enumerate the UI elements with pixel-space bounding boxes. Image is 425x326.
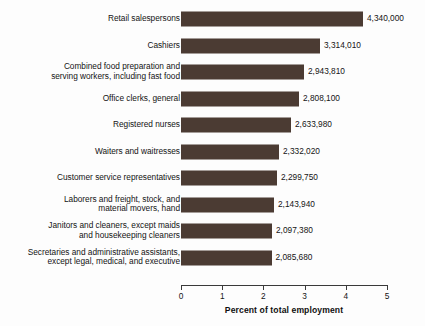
bar — [181, 91, 299, 106]
bar-row: Customer service representatives 2,299,7… — [0, 165, 425, 191]
bar — [181, 144, 279, 159]
value-label: 2,085,680 — [276, 253, 313, 263]
bar-row: Waiters and waitresses 2,332,020 — [0, 139, 425, 165]
x-axis-tick-label: 4 — [336, 291, 356, 301]
x-axis-tick — [346, 285, 347, 290]
x-axis-tick — [263, 285, 264, 290]
category-label: Retail salespersons — [0, 14, 180, 24]
value-label: 4,340,000 — [367, 14, 404, 24]
value-label: 2,143,940 — [278, 200, 315, 210]
x-axis-line — [181, 285, 387, 286]
value-label: 2,332,020 — [283, 147, 320, 157]
bar-row: Laborers and freight, stock, and materia… — [0, 192, 425, 218]
bar-row: Combined food preparation and serving wo… — [0, 59, 425, 85]
value-label: 2,097,380 — [276, 226, 313, 236]
category-label: Combined food preparation and serving wo… — [0, 62, 180, 82]
x-axis-tick — [305, 285, 306, 290]
x-axis-tick — [222, 285, 223, 290]
bar-row: Office clerks, general 2,808,100 — [0, 86, 425, 112]
category-label: Secretaries and administrative assistant… — [0, 248, 180, 268]
value-label: 2,943,810 — [308, 67, 345, 77]
category-label: Cashiers — [0, 41, 180, 51]
x-axis-tick-label: 0 — [171, 291, 191, 301]
bar — [181, 197, 274, 212]
x-axis-tick — [387, 285, 388, 290]
horizontal-bar-chart: Retail salespersons 4,340,000 Cashiers 3… — [0, 0, 425, 326]
value-label: 2,808,100 — [303, 94, 340, 104]
bar — [181, 224, 272, 239]
x-axis-tick-label: 3 — [295, 291, 315, 301]
category-label: Customer service representatives — [0, 173, 180, 183]
bar-row: Retail salespersons 4,340,000 — [0, 6, 425, 32]
bar-row: Registered nurses 2,633,980 — [0, 112, 425, 138]
x-axis-tick-label: 2 — [253, 291, 273, 301]
x-axis-title: Percent of total employment — [181, 305, 387, 315]
category-label: Waiters and waitresses — [0, 147, 180, 157]
x-axis-tick-label: 1 — [212, 291, 232, 301]
category-label: Registered nurses — [0, 120, 180, 130]
bar — [181, 38, 320, 53]
bar-row: Janitors and cleaners, except maids and … — [0, 218, 425, 244]
category-label: Office clerks, general — [0, 94, 180, 104]
bar — [181, 12, 363, 27]
value-label: 3,314,010 — [324, 41, 361, 51]
x-axis-tick-label: 5 — [377, 291, 397, 301]
bar — [181, 65, 304, 80]
category-label: Laborers and freight, stock, and materia… — [0, 195, 180, 215]
bar — [181, 171, 277, 186]
category-label: Janitors and cleaners, except maids and … — [0, 221, 180, 241]
bar-row: Cashiers 3,314,010 — [0, 33, 425, 59]
x-axis-tick — [181, 285, 182, 290]
bar-row: Secretaries and administrative assistant… — [0, 245, 425, 271]
value-label: 2,633,980 — [295, 120, 332, 130]
value-label: 2,299,750 — [281, 173, 318, 183]
bar — [181, 118, 291, 133]
bar — [181, 250, 272, 265]
